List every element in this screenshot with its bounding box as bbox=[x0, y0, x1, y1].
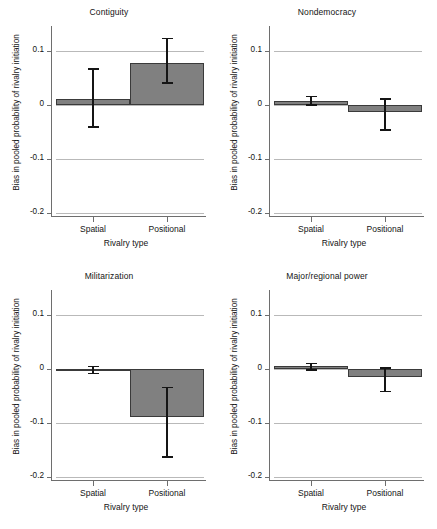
y-axis-line bbox=[51, 290, 52, 480]
y-axis-tick-label: 0 bbox=[10, 99, 44, 108]
error-bar-cap-upper bbox=[306, 96, 317, 98]
y-axis-tick-label: 0.1 bbox=[10, 309, 44, 318]
chart-panel: MilitarizationBias in pooled probability… bbox=[0, 264, 218, 528]
y-axis-line bbox=[269, 26, 270, 216]
error-bar-stem bbox=[166, 387, 168, 456]
x-axis-line bbox=[51, 216, 206, 217]
y-axis-line bbox=[51, 26, 52, 216]
x-axis-line bbox=[269, 216, 424, 217]
panel-title: Contiguity bbox=[0, 7, 218, 17]
x-axis-tick-label: Spatial bbox=[58, 488, 128, 498]
error-bar-cap-upper bbox=[88, 366, 99, 368]
y-axis-tick-label: -0.1 bbox=[228, 153, 262, 162]
gridline bbox=[274, 423, 422, 424]
y-axis-tick-label: -0.1 bbox=[10, 417, 44, 426]
y-axis-tick-label: -0.2 bbox=[10, 471, 44, 480]
x-axis-tick-label: Spatial bbox=[276, 488, 346, 498]
x-axis-tick bbox=[167, 481, 168, 486]
x-axis-label: Rivalry type bbox=[258, 238, 430, 248]
y-axis-tick-label: -0.1 bbox=[10, 153, 44, 162]
gridline bbox=[274, 51, 422, 52]
gridline bbox=[56, 315, 204, 316]
zero-gridline bbox=[56, 105, 204, 106]
gridline bbox=[274, 159, 422, 160]
plot-area bbox=[56, 22, 204, 214]
x-axis-tick bbox=[93, 217, 94, 222]
error-bar-cap-lower bbox=[88, 126, 99, 128]
error-bar-cap-upper bbox=[306, 363, 317, 365]
error-bar-cap-upper bbox=[380, 367, 391, 369]
gridline bbox=[274, 315, 422, 316]
x-axis-tick-label: Positional bbox=[350, 488, 420, 498]
error-bar-cap-upper bbox=[88, 68, 99, 70]
x-axis-tick-label: Positional bbox=[132, 488, 202, 498]
error-bar-cap-upper bbox=[380, 98, 391, 100]
x-axis-line bbox=[269, 480, 424, 481]
gridline bbox=[56, 159, 204, 160]
x-axis-tick bbox=[385, 217, 386, 222]
x-axis-label: Rivalry type bbox=[40, 502, 212, 512]
x-axis-tick bbox=[311, 481, 312, 486]
y-axis-tick-label: 0.1 bbox=[228, 45, 262, 54]
gridline bbox=[56, 213, 204, 214]
figure-panel-grid: ContiguityBias in pooled probability of … bbox=[0, 0, 437, 529]
x-axis-tick bbox=[311, 217, 312, 222]
y-axis-tick-label: 0.1 bbox=[228, 309, 262, 318]
x-axis-label: Rivalry type bbox=[40, 238, 212, 248]
y-axis-tick-label: 0.1 bbox=[10, 45, 44, 54]
error-bar-stem bbox=[92, 68, 94, 126]
chart-panel: ContiguityBias in pooled probability of … bbox=[0, 0, 218, 264]
x-axis-label: Rivalry type bbox=[258, 502, 430, 512]
y-axis-tick-label: -0.1 bbox=[228, 417, 262, 426]
x-axis-tick-label: Positional bbox=[350, 224, 420, 234]
y-axis-line bbox=[269, 290, 270, 480]
plot-area bbox=[274, 286, 422, 478]
x-axis-tick-label: Spatial bbox=[276, 224, 346, 234]
error-bar-cap-lower bbox=[306, 104, 317, 106]
gridline bbox=[56, 477, 204, 478]
error-bar-stem bbox=[166, 38, 168, 83]
error-bar-cap-upper bbox=[162, 38, 173, 40]
gridline bbox=[56, 51, 204, 52]
x-axis-line bbox=[51, 480, 206, 481]
plot-area bbox=[274, 22, 422, 214]
x-axis-tick bbox=[385, 481, 386, 486]
panel-title: Nondemocracy bbox=[218, 7, 436, 17]
error-bar-cap-lower bbox=[380, 129, 391, 131]
y-axis-tick-label: 0 bbox=[10, 363, 44, 372]
x-axis-tick bbox=[93, 481, 94, 486]
error-bar-cap-lower bbox=[88, 373, 99, 375]
error-bar-cap-lower bbox=[306, 369, 317, 371]
x-axis-tick bbox=[167, 217, 168, 222]
y-axis-tick-label: -0.2 bbox=[228, 471, 262, 480]
x-axis-tick-label: Positional bbox=[132, 224, 202, 234]
error-bar-cap-lower bbox=[162, 456, 173, 458]
y-axis-tick-label: -0.2 bbox=[228, 207, 262, 216]
panel-title: Major/regional power bbox=[218, 271, 436, 281]
gridline bbox=[274, 213, 422, 214]
y-axis-tick-label: 0 bbox=[228, 363, 262, 372]
error-bar-cap-upper bbox=[162, 387, 173, 389]
plot-area bbox=[56, 286, 204, 478]
error-bar-stem bbox=[384, 98, 386, 129]
error-bar-stem bbox=[384, 367, 386, 390]
y-axis-tick-label: 0 bbox=[228, 99, 262, 108]
y-axis-tick-label: -0.2 bbox=[10, 207, 44, 216]
chart-panel: Major/regional powerBias in pooled proba… bbox=[218, 264, 436, 528]
x-axis-tick-label: Spatial bbox=[58, 224, 128, 234]
panel-title: Militarization bbox=[0, 271, 218, 281]
chart-panel: NondemocracyBias in pooled probability o… bbox=[218, 0, 436, 264]
error-bar-cap-lower bbox=[380, 391, 391, 393]
gridline bbox=[274, 477, 422, 478]
gridline bbox=[56, 423, 204, 424]
error-bar-cap-lower bbox=[162, 82, 173, 84]
